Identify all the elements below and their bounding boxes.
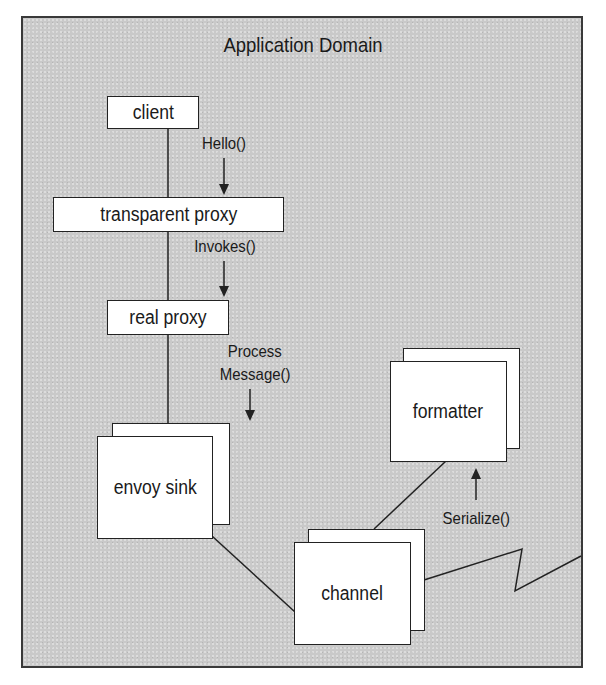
- zigzag-link-line: [424, 549, 581, 591]
- client-node: client: [107, 96, 199, 129]
- real-proxy-label: real proxy: [129, 306, 206, 329]
- channel-node: channel: [294, 542, 411, 645]
- real-proxy-node: real proxy: [107, 300, 229, 335]
- formatter-node: formatter: [390, 361, 507, 462]
- client-label: client: [132, 101, 173, 124]
- arrow-down-icon: [219, 184, 229, 195]
- message-label: Message(): [200, 365, 310, 385]
- transparent-proxy-node: transparent proxy: [53, 197, 284, 232]
- arrow-down-icon: [245, 410, 255, 421]
- invokes-label: Invokes(): [180, 237, 270, 257]
- transparent-proxy-label: transparent proxy: [100, 203, 237, 226]
- envoy-sink-node: envoy sink: [97, 436, 213, 539]
- formatter-label: formatter: [413, 400, 483, 423]
- envoy-sink-label: envoy sink: [113, 476, 196, 499]
- envoy-channel-line: [212, 536, 295, 612]
- process-label: Process: [210, 342, 300, 362]
- hello-label: Hello(): [186, 134, 262, 154]
- arrow-down-icon: [219, 286, 229, 297]
- arrow-up-icon: [471, 468, 481, 479]
- diagram-title: Application Domain: [36, 33, 569, 57]
- serialize-label: Serialize(): [426, 509, 526, 529]
- channel-label: channel: [322, 582, 384, 605]
